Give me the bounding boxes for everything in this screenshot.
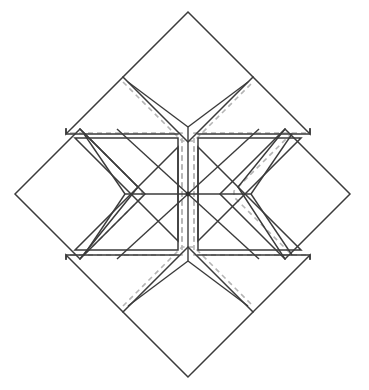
block-outer-edge-bottom-left xyxy=(66,255,123,312)
quilt-block-svg xyxy=(0,0,369,390)
block-outer-edge-top-left xyxy=(66,77,123,134)
star-center-point xyxy=(186,192,191,197)
block-outer-edge-top-right xyxy=(253,77,310,134)
block-outer-edge-bottom-right xyxy=(253,255,310,312)
quilt-block-diagram xyxy=(0,0,369,390)
